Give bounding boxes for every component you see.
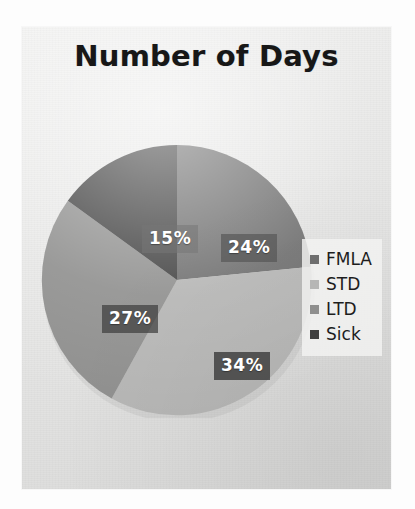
data-label-std: 34% [214,352,270,380]
pie-plot-area [39,142,315,418]
legend-label-sick: Sick [326,326,361,343]
data-label-ltd: 27% [102,305,158,333]
legend-item-std[interactable]: STD [310,272,372,297]
pie-chart-figure: Number of Days 15% 24% 27% 34% [22,27,391,489]
legend-label-fmla: FMLA [326,251,372,268]
scanned-page: Number of Days 15% 24% 27% 34% [0,0,415,509]
pie-svg [39,142,315,418]
legend-swatch-icon-fmla [310,255,319,264]
chart-title: Number of Days [22,39,391,73]
legend-item-ltd[interactable]: LTD [310,297,372,322]
legend-label-std: STD [326,276,360,293]
chart-legend: FMLA STD LTD Sick [302,239,382,356]
legend-swatch-icon-std [310,280,319,289]
data-label-sick: 15% [142,225,198,253]
legend-item-sick[interactable]: Sick [310,322,372,347]
legend-swatch-icon-ltd [310,305,319,314]
legend-label-ltd: LTD [326,301,357,318]
legend-item-fmla[interactable]: FMLA [310,247,372,272]
legend-swatch-icon-sick [310,330,319,339]
data-label-fmla: 24% [221,234,277,262]
